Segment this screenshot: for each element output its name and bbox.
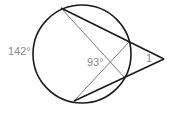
geometry-diagram: 142° 93° 1 — [0, 0, 169, 118]
chord-bottom-to-upper-right — [74, 42, 129, 101]
circle — [33, 5, 131, 103]
angle-label-93: 93° — [87, 56, 104, 68]
angle-label-1: 1 — [146, 52, 152, 64]
arc-label-142: 142° — [8, 45, 31, 57]
